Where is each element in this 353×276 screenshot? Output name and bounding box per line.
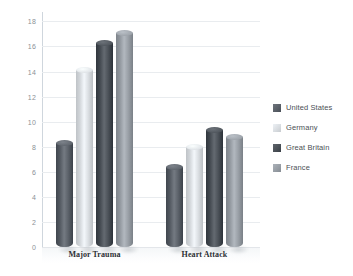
y-tick-label-12: 12 bbox=[6, 93, 36, 100]
bar-body bbox=[226, 137, 243, 247]
bar-group-heart-attack bbox=[166, 12, 243, 247]
bar-body bbox=[166, 167, 183, 247]
category-label-major-trauma: Major Trauma bbox=[68, 250, 120, 259]
bar-cap bbox=[116, 30, 133, 36]
bar-great-britain-major-trauma[interactable] bbox=[96, 12, 113, 247]
bar-body bbox=[206, 130, 223, 247]
legend-item-great-britain[interactable]: Great Britain bbox=[273, 139, 353, 156]
bar-cap bbox=[56, 140, 73, 146]
plot-area bbox=[42, 12, 260, 247]
legend-label: United States bbox=[286, 103, 332, 112]
legend-swatch-icon bbox=[273, 124, 281, 132]
y-tick-label-4: 4 bbox=[6, 193, 36, 200]
y-tick-label-8: 8 bbox=[6, 143, 36, 150]
bar-chart: 181614121086420 Major TraumaHeart Attack… bbox=[0, 0, 353, 276]
bar-france-heart-attack[interactable] bbox=[226, 12, 243, 247]
legend-swatch-icon bbox=[273, 164, 281, 172]
legend-item-france[interactable]: France bbox=[273, 159, 353, 176]
bar-france-major-trauma[interactable] bbox=[116, 12, 133, 247]
legend-item-united-states[interactable]: United States bbox=[273, 99, 353, 116]
y-tick-label-18: 18 bbox=[6, 18, 36, 25]
y-tick-label-0: 0 bbox=[6, 244, 36, 251]
bar-body bbox=[116, 33, 133, 247]
legend-label: Germany bbox=[286, 123, 318, 132]
legend-label: France bbox=[286, 163, 310, 172]
bar-united-states-major-trauma[interactable] bbox=[56, 12, 73, 247]
bar-body bbox=[76, 70, 93, 247]
y-tick-label-14: 14 bbox=[6, 68, 36, 75]
bar-body bbox=[186, 147, 203, 247]
bar-cap bbox=[226, 134, 243, 140]
bar-germany-heart-attack[interactable] bbox=[186, 12, 203, 247]
bar-germany-major-trauma[interactable] bbox=[76, 12, 93, 247]
bar-cap bbox=[186, 144, 203, 150]
chart-legend: United StatesGermanyGreat BritainFrance bbox=[273, 99, 353, 179]
bar-cap bbox=[96, 40, 113, 46]
bar-body bbox=[96, 43, 113, 247]
legend-label: Great Britain bbox=[286, 143, 329, 152]
bar-group-major-trauma bbox=[56, 12, 133, 247]
category-label-heart-attack: Heart Attack bbox=[182, 250, 228, 259]
y-tick-label-2: 2 bbox=[6, 218, 36, 225]
legend-item-germany[interactable]: Germany bbox=[273, 119, 353, 136]
bar-cap bbox=[166, 164, 183, 170]
y-tick-label-16: 16 bbox=[6, 43, 36, 50]
legend-swatch-icon bbox=[273, 104, 281, 112]
bar-body bbox=[56, 143, 73, 247]
y-tick-label-6: 6 bbox=[6, 168, 36, 175]
legend-swatch-icon bbox=[273, 144, 281, 152]
y-axis-ticks: 181614121086420 bbox=[0, 12, 36, 248]
bar-great-britain-heart-attack[interactable] bbox=[206, 12, 223, 247]
y-tick-label-10: 10 bbox=[6, 118, 36, 125]
bar-united-states-heart-attack[interactable] bbox=[166, 12, 183, 247]
